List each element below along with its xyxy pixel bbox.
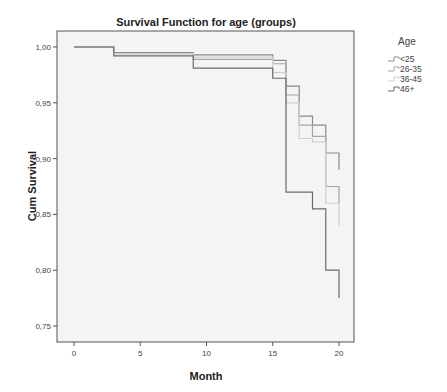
x-tick-label: 5 [138, 349, 143, 358]
legend-swatch-icon [388, 77, 399, 81]
legend-label: 46+ [400, 84, 414, 94]
legend-item: <25 [388, 54, 415, 64]
y-axis-label: Cum Survival [26, 151, 38, 221]
x-tick-label: 0 [72, 349, 77, 358]
legend-swatch-icon [388, 57, 399, 61]
legend-swatch-icon [388, 67, 399, 71]
y-axis: 1,000,950,900,850,800,75 [35, 43, 57, 331]
x-axis: 05101520 [72, 342, 344, 358]
legend-item: 26-35 [388, 64, 422, 74]
y-tick-label: 0,95 [35, 99, 51, 108]
plot-area [57, 31, 354, 342]
x-tick-label: 20 [335, 349, 344, 358]
y-tick-label: 0,80 [35, 266, 51, 275]
survival-chart: Survival Function for age (groups) 1,000… [0, 0, 447, 392]
y-tick-label: 1,00 [35, 43, 51, 52]
chart-title: Survival Function for age (groups) [116, 16, 296, 28]
x-tick-label: 10 [202, 349, 211, 358]
legend-item: 36-45 [388, 74, 422, 84]
legend-label: <25 [400, 54, 415, 64]
legend-label: 26-35 [400, 64, 422, 74]
legend-swatch-icon [388, 87, 399, 91]
legend-label: 36-45 [400, 74, 422, 84]
legend-title: Age [398, 36, 416, 47]
y-tick-label: 0,75 [35, 322, 51, 331]
x-axis-label: Month [190, 370, 223, 382]
legend-item: 46+ [388, 84, 414, 94]
x-tick-label: 15 [268, 349, 277, 358]
legend: Age <2526-3536-4546+ [388, 36, 422, 94]
